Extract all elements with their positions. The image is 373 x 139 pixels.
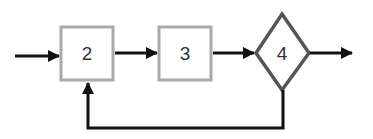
node-2-box: 2 — [61, 27, 113, 80]
node-2-label: 2 — [82, 43, 93, 64]
feedback-arrow-4-to-2 — [88, 83, 283, 128]
node-4-label: 4 — [277, 43, 288, 64]
node-3-label: 3 — [180, 43, 191, 64]
flow-diagram: 2 3 4 — [0, 0, 373, 139]
node-3-box: 3 — [159, 27, 211, 80]
node-4-diamond: 4 — [256, 14, 309, 90]
